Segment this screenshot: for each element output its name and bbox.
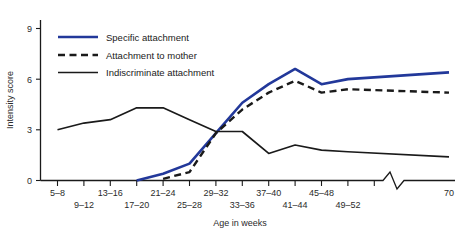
x-tick-label-70: 70 (444, 188, 454, 198)
x-tick-label-17-20: 17–20 (124, 200, 149, 210)
x-tick-label-29-32: 29–32 (203, 188, 228, 198)
legend-label-specific-attachment: Specific attachment (106, 32, 189, 43)
legend-label-attachment-to-mother: Attachment to mother (106, 50, 197, 61)
y-tick-label-6: 6 (27, 75, 32, 85)
x-tick-label-21-24: 21–24 (151, 188, 176, 198)
y-ticks (36, 29, 41, 181)
x-tick-label-49-52: 49–52 (335, 200, 360, 210)
series-line-specific-attachment (137, 69, 449, 181)
y-tick-label-9: 9 (27, 24, 32, 34)
series-line-attachment-to-mother (163, 81, 449, 179)
attachment-intensity-line-chart: 9 6 3 0 Intensity score 5–8 13–16 (0, 0, 463, 232)
x-tick-label-5-8: 5–8 (50, 188, 65, 198)
x-tick-labels-bottom-row: 9–12 17–20 25–28 33–36 41–44 49–52 (74, 200, 361, 210)
y-tick-labels: 9 6 3 0 (27, 24, 32, 186)
x-ticks (58, 181, 375, 187)
series-layer (58, 69, 450, 181)
x-axis-line-with-break (41, 172, 456, 189)
series-line-indiscriminate-attachment (58, 108, 450, 157)
x-tick-label-25-28: 25–28 (177, 200, 202, 210)
x-tick-label-37-40: 37–40 (256, 188, 281, 198)
x-axis-title: Age in weeks (213, 218, 267, 228)
chart-svg: 9 6 3 0 Intensity score 5–8 13–16 (0, 0, 463, 232)
x-tick-label-9-12: 9–12 (74, 200, 94, 210)
x-tick-label-41-44: 41–44 (283, 200, 308, 210)
x-tick-label-13-16: 13–16 (98, 188, 123, 198)
x-tick-label-33-36: 33–36 (230, 200, 255, 210)
legend-label-indiscriminate-attachment: Indiscriminate attachment (106, 67, 215, 78)
y-tick-label-0: 0 (27, 176, 32, 186)
y-tick-label-3: 3 (27, 125, 32, 135)
y-axis-title: Intensity score (5, 71, 15, 129)
x-tick-labels-top-row: 5–8 13–16 21–24 29–32 37–40 45–48 70 (50, 188, 454, 198)
x-tick-label-45-48: 45–48 (309, 188, 334, 198)
chart-legend: Specific attachment Attachment to mother… (58, 32, 215, 79)
